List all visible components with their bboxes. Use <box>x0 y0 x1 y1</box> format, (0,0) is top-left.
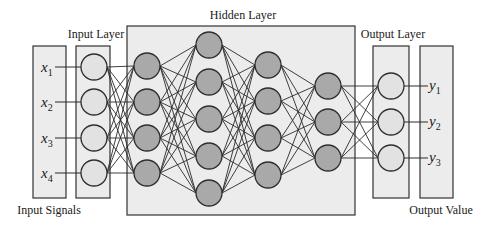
input-node-1 <box>81 54 107 80</box>
hidden-2-node-1 <box>196 32 222 58</box>
hidden-3-node-3 <box>255 125 281 151</box>
hidden-3-node-4 <box>255 162 281 188</box>
input-layer-label: Input Layer <box>68 27 124 41</box>
hidden-1-node-4 <box>134 160 160 186</box>
output-layer-label: Output Layer <box>361 27 425 41</box>
hidden-1-node-1 <box>134 53 160 79</box>
hidden-3-node-1 <box>255 52 281 78</box>
hidden-4-node-3 <box>315 145 341 171</box>
input-node-4 <box>81 160 107 186</box>
input-signals-label: Input Signals <box>17 203 81 217</box>
hidden-1-node-3 <box>134 125 160 151</box>
neural-network-diagram: Hidden Layer Input Layer Output Layer In… <box>0 0 494 230</box>
hidden-2-node-2 <box>196 69 222 95</box>
output-node-1 <box>378 73 404 99</box>
diagram-canvas: Hidden Layer Input Layer Output Layer In… <box>0 0 494 230</box>
input-node-2 <box>81 89 107 115</box>
hidden-layer-label: Hidden Layer <box>210 8 276 22</box>
output-node-2 <box>378 109 404 135</box>
hidden-3-node-2 <box>255 88 281 114</box>
output-node-3 <box>378 145 404 171</box>
hidden-2-node-4 <box>196 143 222 169</box>
hidden-2-node-5 <box>196 180 222 206</box>
hidden-2-node-3 <box>196 106 222 132</box>
output-value-label: Output Value <box>409 203 472 217</box>
input-node-3 <box>81 125 107 151</box>
hidden-4-node-1 <box>315 73 341 99</box>
hidden-4-node-2 <box>315 109 341 135</box>
hidden-1-node-2 <box>134 89 160 115</box>
